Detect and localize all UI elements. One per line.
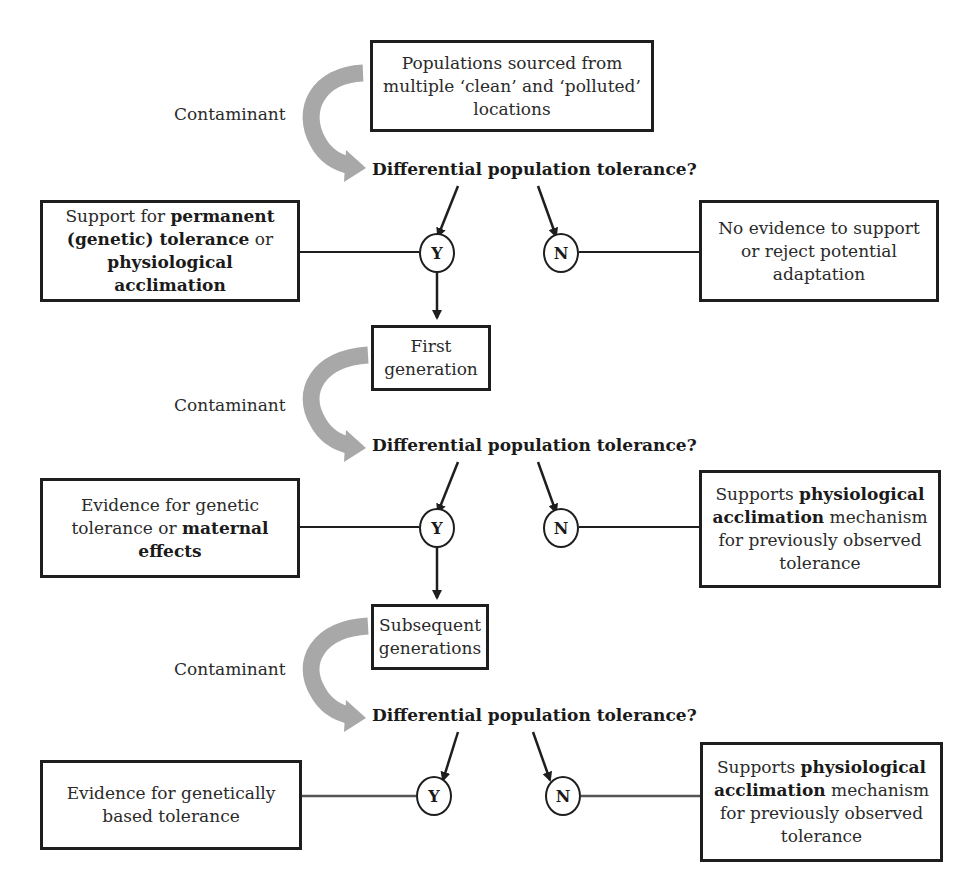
box-text: Evidence for genetic tolerance or matern… bbox=[49, 494, 291, 563]
yes-node-stage-3: Y bbox=[416, 776, 452, 816]
arrow-to-yes-stage-1 bbox=[438, 186, 458, 236]
arrow-to-no-stage-2 bbox=[538, 462, 556, 512]
yes-outcome-box-stage-3: Evidence for genetically based tolerance bbox=[40, 760, 302, 850]
contaminant-label-stage-3: Contaminant bbox=[174, 658, 286, 680]
emphasized-text: physiological acclimation bbox=[107, 252, 232, 295]
text-span: Support for bbox=[65, 206, 170, 226]
arrow-to-no-stage-3 bbox=[533, 732, 550, 780]
question-stage-1: Differential population tolerance? bbox=[372, 158, 697, 180]
no-outcome-box-stage-3: Supports physiological acclimation mecha… bbox=[700, 742, 943, 862]
box-text: Subsequent generations bbox=[379, 614, 481, 660]
question-stage-2: Differential population tolerance? bbox=[372, 434, 697, 456]
source-box-stage-2: First generation bbox=[371, 325, 491, 391]
text-span: Supports bbox=[715, 484, 799, 504]
text-span: Supports bbox=[717, 757, 801, 777]
yes-node-stage-1: Y bbox=[419, 233, 455, 273]
text-span: First generation bbox=[384, 336, 478, 379]
no-node-stage-1: N bbox=[543, 233, 579, 273]
arrow-to-yes-stage-2 bbox=[438, 462, 458, 512]
yes-node-stage-2: Y bbox=[419, 508, 455, 548]
question-stage-3: Differential population tolerance? bbox=[372, 704, 697, 726]
contaminant-label-stage-2: Contaminant bbox=[174, 394, 286, 416]
arrow-to-yes-stage-3 bbox=[443, 732, 458, 780]
source-box-stage-3: Subsequent generations bbox=[371, 604, 489, 670]
curved-arrow-stage-2 bbox=[311, 355, 368, 462]
text-span: or bbox=[249, 229, 273, 249]
tolerance-flowchart: Populations sourced from multiple ‘clean… bbox=[0, 0, 978, 893]
arrow-to-no-stage-1 bbox=[538, 186, 556, 236]
yes-outcome-box-stage-1: Support for permanent (genetic) toleranc… bbox=[40, 200, 300, 302]
box-text: Supports physiological acclimation mecha… bbox=[708, 483, 932, 575]
source-box-stage-1: Populations sourced from multiple ‘clean… bbox=[370, 40, 654, 132]
yes-outcome-box-stage-2: Evidence for genetic tolerance or matern… bbox=[40, 478, 300, 578]
box-text: Populations sourced from multiple ‘clean… bbox=[379, 52, 645, 121]
box-text: No evidence to support or reject potenti… bbox=[708, 217, 930, 286]
curved-arrow-stage-3 bbox=[311, 626, 368, 732]
no-node-stage-2: N bbox=[543, 508, 579, 548]
box-text: Evidence for genetically based tolerance bbox=[49, 782, 293, 828]
box-text: Support for permanent (genetic) toleranc… bbox=[49, 205, 291, 297]
text-span: Populations sourced from multiple ‘clean… bbox=[383, 53, 641, 119]
curved-arrow-stage-1 bbox=[311, 73, 366, 182]
no-outcome-box-stage-1: No evidence to support or reject potenti… bbox=[699, 200, 939, 302]
text-span: Subsequent generations bbox=[379, 615, 481, 658]
no-outcome-box-stage-2: Supports physiological acclimation mecha… bbox=[699, 470, 941, 588]
box-text: Supports physiological acclimation mecha… bbox=[709, 756, 934, 848]
text-span: Evidence for genetically based tolerance bbox=[67, 783, 276, 826]
box-text: First generation bbox=[380, 335, 482, 381]
contaminant-label-stage-1: Contaminant bbox=[174, 103, 286, 125]
text-span: No evidence to support or reject potenti… bbox=[718, 218, 920, 284]
no-node-stage-3: N bbox=[545, 776, 581, 816]
